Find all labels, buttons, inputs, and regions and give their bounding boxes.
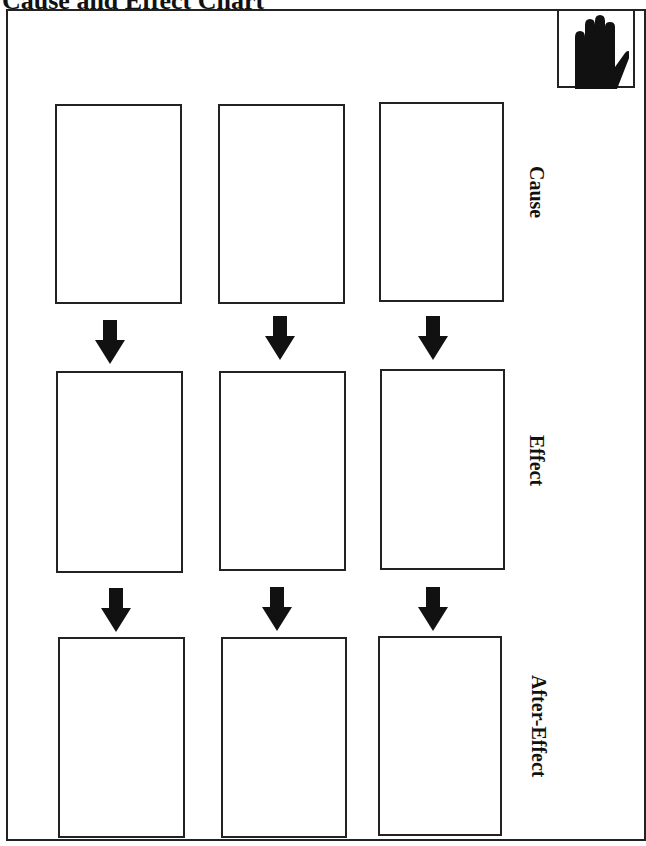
row-label-after-effect: After-Effect [527,675,550,778]
effect-box-2[interactable] [219,371,346,571]
corner-icon-box [557,9,635,88]
after-effect-box-2[interactable] [221,637,347,838]
row-label-effect: Effect [525,435,548,486]
after-effect-box-1[interactable] [58,637,185,838]
effect-box-1[interactable] [56,371,183,573]
down-arrow-icon [95,320,125,364]
effect-box-3[interactable] [380,369,505,570]
cause-box-1[interactable] [55,104,182,304]
down-arrow-icon [262,587,292,631]
row-label-cause: Cause [525,166,548,218]
after-effect-box-3[interactable] [378,636,502,836]
cause-box-3[interactable] [379,102,504,302]
cause-box-2[interactable] [218,104,345,304]
down-arrow-icon [101,588,131,632]
down-arrow-icon [418,316,448,360]
down-arrow-icon [265,316,295,360]
raised-hand-icon [567,15,629,89]
down-arrow-icon [418,587,448,631]
